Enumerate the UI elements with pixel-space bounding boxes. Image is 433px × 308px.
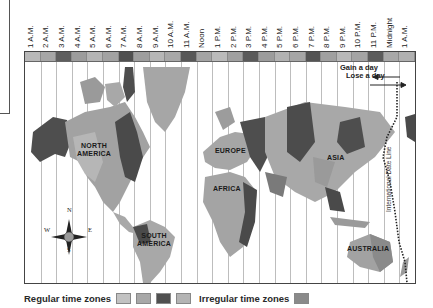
time-zone-band-cell [56, 52, 72, 61]
time-zone-band-cell [103, 52, 119, 61]
time-zone-band-cell [337, 52, 353, 61]
time-zone-band-cell [384, 52, 400, 61]
lose-a-day-label: Lose a day [346, 71, 385, 80]
legend-swatch-regular-3 [156, 293, 171, 304]
time-zone-band-cell [228, 52, 244, 61]
hour-label: 1 P.M. [213, 26, 223, 48]
label-australia: AUSTRALIA [347, 245, 389, 253]
hour-label: 3 A.M. [57, 25, 67, 48]
world-time-zone-map: NORTHAMERICA SOUTHAMERICA EUROPE AFRICA … [24, 51, 416, 284]
label-europe: EUROPE [215, 147, 246, 155]
label-africa: AFRICA [213, 185, 241, 193]
side-frame [0, 0, 10, 114]
hour-label: 1 A.M. [26, 25, 36, 48]
legend-swatch-irregular [294, 293, 309, 304]
hour-label: 6 A.M. [104, 25, 114, 48]
time-zone-band-cell [181, 52, 197, 61]
time-zone-band-cell [368, 52, 384, 61]
label-asia: ASIA [327, 154, 345, 162]
time-zone-band-cell [72, 52, 88, 61]
hour-label: 3 P.M. [244, 26, 254, 48]
hour-label: 9 A.M. [151, 25, 161, 48]
time-zone-band-cell [25, 52, 41, 61]
hour-label: 7 P.M. [307, 26, 317, 48]
compass-n: N [67, 206, 72, 213]
hour-label: 2 P.M. [229, 26, 239, 48]
legend-regular-label: Regular time zones [24, 293, 111, 304]
hour-label: 2 A.M. [41, 25, 51, 48]
hour-label: 4 P.M. [260, 26, 270, 48]
time-zone-band-cell [399, 52, 415, 61]
time-zone-band-cell [212, 52, 228, 61]
label-north-america: NORTHAMERICA [77, 142, 111, 158]
time-zone-band-cell [259, 52, 275, 61]
time-zone-band [25, 52, 415, 62]
hour-label: 10 P.M. [353, 21, 363, 48]
legend-swatch-regular-4 [176, 293, 191, 304]
hour-label: 1 A.M. [400, 25, 410, 48]
hour-label: 4 A.M. [73, 25, 83, 48]
time-zone-band-cell [306, 52, 322, 61]
hour-label: 11 A.M. [182, 21, 192, 48]
hour-label: 8 A.M. [135, 25, 145, 48]
time-zone-band-cell [119, 52, 135, 61]
hour-label: 9 P.M. [338, 26, 348, 48]
time-zone-band-cell [275, 52, 291, 61]
compass-s: S [67, 246, 71, 253]
hour-label: 8 P.M. [322, 26, 332, 48]
hour-label: 10 A.M. [166, 21, 176, 48]
hour-label: Noon [197, 29, 207, 48]
label-south-america: SOUTHAMERICA [137, 232, 171, 248]
time-zone-band-cell [290, 52, 306, 61]
legend-swatch-regular-2 [136, 293, 151, 304]
hour-label: Midnight [385, 18, 395, 48]
hour-label: 6 P.M. [291, 26, 301, 48]
time-zone-band-cell [321, 52, 337, 61]
hour-label: 7 A.M. [119, 25, 129, 48]
time-zone-band-cell [150, 52, 166, 61]
hour-label: 11 P.M. [369, 22, 379, 48]
legend: Regular time zones Irregular time zones [24, 292, 309, 304]
time-zone-band-cell [165, 52, 181, 61]
time-zone-band-cell [352, 52, 368, 61]
time-zone-band-cell [134, 52, 150, 61]
legend-irregular-label: Irregular time zones [199, 293, 289, 304]
hour-labels: 1 A.M.2 A.M.3 A.M.4 A.M.5 A.M.6 A.M.7 A.… [24, 0, 416, 50]
legend-swatch-regular-1 [116, 293, 131, 304]
compass-e: E [88, 226, 92, 233]
time-zone-band-cell [243, 52, 259, 61]
compass-w: W [44, 226, 50, 233]
date-line-label: International Date Line [385, 147, 392, 212]
hour-label: 5 A.M. [88, 25, 98, 48]
time-zone-band-cell [41, 52, 57, 61]
hour-label: 5 P.M. [275, 26, 285, 48]
time-zone-band-cell [197, 52, 213, 61]
time-zone-band-cell [87, 52, 103, 61]
